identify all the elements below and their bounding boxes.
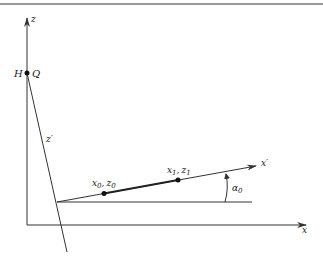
angle-arc: [225, 174, 227, 202]
z-axis-label: z: [30, 14, 36, 24]
point-x0z0: [102, 191, 107, 196]
x-axis-label: x: [302, 225, 307, 235]
label-x0-z0: x0,z0: [92, 178, 116, 190]
point-HQ: [25, 71, 30, 76]
label-Q: Q: [32, 68, 40, 79]
x-prime-label: x′: [261, 158, 268, 168]
label-H: H: [13, 68, 23, 79]
label-x1-z1: x1,z1: [167, 165, 191, 177]
angle-label: α0: [232, 183, 243, 195]
point-x1z1: [176, 178, 181, 183]
z-prime-label: z′: [45, 134, 53, 144]
rotated-axes-diagram: z H Q z′ x0,z0 x1,z1 x′ α0 x: [0, 0, 323, 262]
